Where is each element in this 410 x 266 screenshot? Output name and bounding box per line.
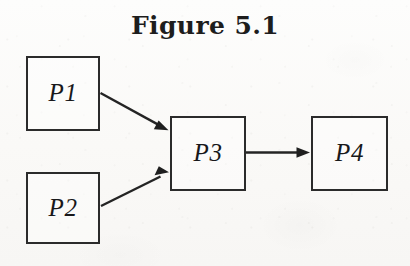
- node-p2: P2: [26, 172, 100, 244]
- edge-p1-to-p3-line: [101, 93, 161, 126]
- node-p1-label: P1: [49, 80, 78, 105]
- node-p2-label: P2: [49, 195, 78, 220]
- edge-p2-to-p3: [101, 166, 169, 206]
- node-p4-label: P4: [335, 140, 364, 165]
- edge-p2-to-p3-arrowhead: [155, 166, 169, 175]
- edge-p1-to-p3: [101, 93, 169, 130]
- figure-canvas: Figure 5.1 P1 P2 P3 P4: [0, 0, 410, 266]
- edge-p3-to-p4: [246, 147, 310, 158]
- node-p4: P4: [311, 116, 388, 191]
- edge-p3-to-p4-arrowhead: [297, 147, 311, 158]
- edge-p2-to-p3-line: [101, 177, 161, 207]
- node-p3-label: P3: [194, 140, 223, 165]
- node-p3: P3: [170, 116, 246, 191]
- node-p1: P1: [26, 56, 100, 131]
